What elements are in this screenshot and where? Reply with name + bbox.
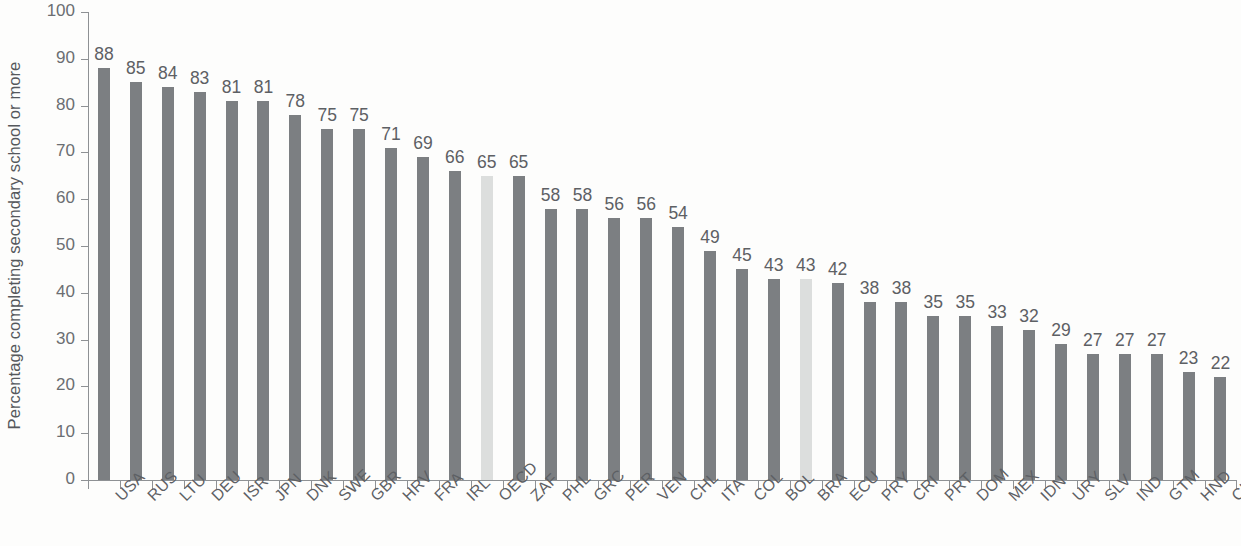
bar-slot: 27 (1141, 12, 1173, 480)
bar-value-label: 22 (1211, 353, 1230, 374)
bar-slot: 29 (1045, 12, 1077, 480)
bar[interactable] (927, 316, 939, 480)
x-axis-label: DNK (303, 492, 316, 505)
x-axis-label: VEN (654, 492, 667, 505)
bar[interactable] (640, 218, 652, 480)
y-axis-tick-label: 90 (56, 48, 75, 68)
bar[interactable] (864, 302, 876, 480)
bar-slot: 38 (886, 12, 918, 480)
bar[interactable] (449, 171, 461, 480)
bar[interactable] (1183, 372, 1195, 480)
y-axis-tick: 50 (0, 246, 88, 247)
bar[interactable] (895, 302, 907, 480)
x-axis-label: IRL (463, 492, 476, 505)
bar[interactable] (162, 87, 174, 480)
bar[interactable] (800, 279, 812, 480)
bar[interactable] (704, 251, 716, 480)
bar-slot: 22 (1205, 12, 1237, 480)
bar[interactable] (257, 101, 269, 480)
bar[interactable] (194, 92, 206, 480)
bar[interactable] (98, 68, 110, 480)
y-axis-tick-label: 30 (56, 329, 75, 349)
bar-value-label: 81 (222, 77, 241, 98)
bar-slot: 45 (726, 12, 758, 480)
bar[interactable] (1087, 354, 1099, 480)
bar[interactable] (353, 129, 365, 480)
bar-value-label: 58 (573, 185, 592, 206)
bar[interactable] (513, 176, 525, 480)
x-axis-label: OECD (495, 492, 508, 505)
y-axis-tick-mark (81, 433, 88, 434)
y-axis-tick-label: 50 (56, 235, 75, 255)
x-axis-label: ITA (718, 492, 731, 505)
bar[interactable] (1214, 377, 1226, 480)
x-axis-label: GRC (590, 492, 603, 505)
y-axis-tick: 60 (0, 199, 88, 200)
bar[interactable] (768, 279, 780, 480)
bar-value-label: 54 (668, 203, 687, 224)
bar-value-label: 65 (477, 152, 496, 173)
bar[interactable] (385, 148, 397, 480)
bar[interactable] (1055, 344, 1067, 480)
bar[interactable] (226, 101, 238, 480)
bar[interactable] (1023, 330, 1035, 480)
bar[interactable] (576, 209, 588, 480)
bar-slot: 49 (694, 12, 726, 480)
bar-value-label: 88 (94, 44, 113, 65)
bar-slot: 27 (1109, 12, 1141, 480)
bar[interactable] (736, 269, 748, 480)
x-axis-label: JPN (271, 492, 284, 505)
bar-value-label: 75 (318, 105, 337, 126)
y-axis-tick-mark (81, 152, 88, 153)
bar-value-label: 56 (637, 194, 656, 215)
bar[interactable] (608, 218, 620, 480)
bar-slot: 69 (407, 12, 439, 480)
bar-value-label: 75 (349, 105, 368, 126)
bar-value-label: 65 (509, 152, 528, 173)
bar[interactable] (991, 326, 1003, 480)
bar-value-label: 29 (1051, 320, 1070, 341)
y-axis-tick: 100 (0, 12, 88, 13)
x-axis-label: HND (1197, 492, 1210, 505)
y-axis-tick: 90 (0, 59, 88, 60)
x-axis-label: PHL (559, 492, 572, 505)
bar-value-label: 42 (828, 259, 847, 280)
x-axis-label: SLV (1101, 492, 1114, 505)
y-axis-tick-label: 60 (56, 188, 75, 208)
bar[interactable] (832, 283, 844, 480)
bar-slot: 81 (248, 12, 280, 480)
x-axis-label: BOL (782, 492, 795, 505)
y-axis-tick: 20 (0, 386, 88, 387)
y-axis-tick-label: 70 (56, 141, 75, 161)
y-axis-tick-label: 20 (56, 375, 75, 395)
bar[interactable] (545, 209, 557, 480)
y-axis-tick-label: 100 (47, 1, 75, 21)
x-axis-label: GBR (367, 492, 380, 505)
bar[interactable] (1119, 354, 1131, 480)
bar[interactable] (321, 129, 333, 480)
y-axis-tick: 0 (0, 480, 88, 481)
bar-value-label: 38 (860, 278, 879, 299)
bar[interactable] (417, 157, 429, 480)
y-axis-tick-label: 0 (66, 469, 75, 489)
bar-slot: 84 (152, 12, 184, 480)
y-axis-tick-mark (81, 293, 88, 294)
bar-slot: 32 (1013, 12, 1045, 480)
bar[interactable] (672, 227, 684, 480)
bar[interactable] (959, 316, 971, 480)
bar[interactable] (1151, 354, 1163, 480)
y-axis-tick-label: 10 (56, 422, 75, 442)
bar-value-label: 27 (1115, 330, 1134, 351)
bar-slot: 65 (503, 12, 535, 480)
bar-slot: 54 (662, 12, 694, 480)
bar[interactable] (130, 82, 142, 480)
x-axis-label: CRI (909, 492, 922, 505)
bar-slot: 33 (981, 12, 1013, 480)
bar-value-label: 43 (764, 255, 783, 276)
bar-value-label: 66 (445, 147, 464, 168)
bar[interactable] (481, 176, 493, 480)
bar[interactable] (289, 115, 301, 480)
bar-slot: 78 (279, 12, 311, 480)
x-axis-label: IND (1133, 492, 1146, 505)
x-axis-label: DEU (208, 492, 221, 505)
